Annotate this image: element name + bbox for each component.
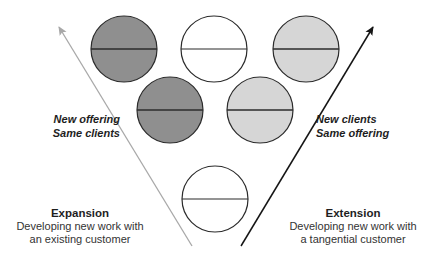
extension-desc-line1: Developing new work with xyxy=(283,220,423,233)
expansion-desc-line2: an existing customer xyxy=(10,233,150,246)
circle-top-left xyxy=(91,16,157,82)
expansion-desc-line1: Developing new work with xyxy=(10,220,150,233)
circle-top-right xyxy=(273,16,339,82)
extension-caption: Extension Developing new work with a tan… xyxy=(283,206,423,246)
expansion-caption: Expansion Developing new work with an ex… xyxy=(10,206,150,246)
circle-top-center xyxy=(181,16,247,82)
left-axis-label-line2: Same clients xyxy=(40,126,120,140)
right-axis-label-line2: Same offering xyxy=(316,126,406,140)
circle-bottom xyxy=(182,166,248,232)
circle-mid-right xyxy=(227,77,293,143)
right-axis-label: New clients Same offering xyxy=(316,112,406,140)
right-axis-label-line1: New clients xyxy=(316,112,406,126)
left-axis-label: New offering Same clients xyxy=(40,112,120,140)
left-axis-label-line1: New offering xyxy=(40,112,120,126)
extension-title: Extension xyxy=(283,206,423,220)
circle-mid-left xyxy=(137,77,203,143)
expansion-title: Expansion xyxy=(10,206,150,220)
extension-desc-line2: a tangential customer xyxy=(283,233,423,246)
